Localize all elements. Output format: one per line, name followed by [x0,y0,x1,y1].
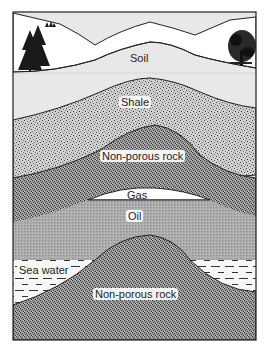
label-oil: Oil [126,210,143,222]
label-soil: Soil [130,52,148,64]
label-gas: Gas [127,189,147,201]
label-shale: Shale [119,96,151,108]
label-nonporous-rock-upper: Non-porous rock [100,150,185,162]
label-nonporous-rock-lower: Non-porous rock [93,288,178,300]
label-sea-water: Sea water [17,264,71,276]
